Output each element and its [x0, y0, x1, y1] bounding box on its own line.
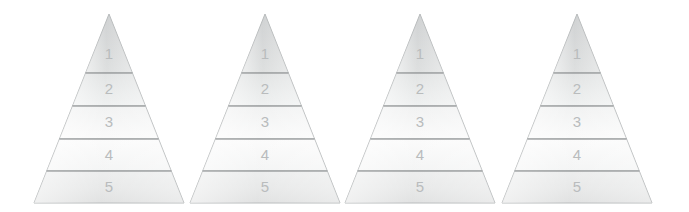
pyramid-level-label-2: 2	[416, 80, 425, 97]
pyramid-level-sheen-1	[86, 14, 133, 73]
pyramid-level-3[interactable]: 3	[215, 106, 314, 139]
pyramid-level-label-3: 3	[105, 113, 114, 130]
pyramid-level-5[interactable]: 5	[34, 171, 184, 203]
pyramid-level-label-2: 2	[261, 80, 270, 97]
pyramid-level-label-1: 1	[573, 45, 582, 62]
pyramid-level-sheen-1	[554, 14, 601, 73]
pyramid-level-4[interactable]: 4	[47, 139, 172, 171]
pyramid-3[interactable]: 12345	[345, 14, 495, 203]
pyramid-level-5[interactable]: 5	[502, 171, 652, 203]
pyramid-level-4[interactable]: 4	[358, 139, 483, 171]
pyramid-2[interactable]: 12345	[190, 14, 340, 203]
pyramid-level-label-5: 5	[261, 178, 270, 195]
pyramid-4[interactable]: 12345	[502, 14, 652, 203]
pyramid-level-label-4: 4	[261, 146, 270, 163]
pyramid-level-1[interactable]: 1	[242, 14, 289, 73]
pyramid-level-5[interactable]: 5	[190, 171, 340, 203]
pyramid-level-label-3: 3	[261, 113, 270, 130]
pyramid-level-1[interactable]: 1	[86, 14, 133, 73]
pyramid-level-sheen-1	[242, 14, 289, 73]
pyramid-level-label-2: 2	[105, 80, 114, 97]
pyramid-diagram-svg: 12345123451234512345	[0, 0, 689, 212]
pyramid-level-2[interactable]: 2	[228, 73, 301, 106]
pyramid-level-3[interactable]: 3	[370, 106, 469, 139]
pyramid-level-4[interactable]: 4	[203, 139, 328, 171]
pyramids-group: 12345123451234512345	[34, 14, 652, 203]
pyramid-level-label-1: 1	[261, 45, 270, 62]
pyramid-level-label-4: 4	[105, 146, 114, 163]
pyramid-level-3[interactable]: 3	[59, 106, 158, 139]
pyramid-level-1[interactable]: 1	[554, 14, 601, 73]
pyramid-level-2[interactable]: 2	[72, 73, 145, 106]
pyramid-level-label-4: 4	[416, 146, 425, 163]
pyramid-level-1[interactable]: 1	[397, 14, 444, 73]
pyramid-level-sheen-1	[397, 14, 444, 73]
pyramid-level-5[interactable]: 5	[345, 171, 495, 203]
pyramid-level-4[interactable]: 4	[515, 139, 640, 171]
pyramid-level-label-1: 1	[105, 45, 114, 62]
pyramid-level-label-1: 1	[416, 45, 425, 62]
pyramid-1[interactable]: 12345	[34, 14, 184, 203]
pyramid-level-3[interactable]: 3	[527, 106, 626, 139]
pyramid-level-label-5: 5	[416, 178, 425, 195]
pyramid-level-label-3: 3	[573, 113, 582, 130]
pyramid-level-label-5: 5	[573, 178, 582, 195]
pyramid-level-label-5: 5	[105, 178, 114, 195]
pyramid-diagram-canvas: 12345123451234512345	[0, 0, 689, 212]
pyramid-level-label-2: 2	[573, 80, 582, 97]
pyramid-level-label-3: 3	[416, 113, 425, 130]
pyramid-level-2[interactable]: 2	[540, 73, 613, 106]
pyramid-level-label-4: 4	[573, 146, 582, 163]
pyramid-level-2[interactable]: 2	[383, 73, 456, 106]
